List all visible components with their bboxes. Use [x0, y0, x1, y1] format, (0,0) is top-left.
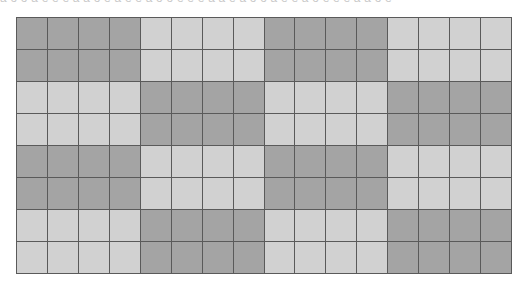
grid-cell	[481, 210, 511, 241]
grid-cell	[419, 146, 449, 177]
grid-cell	[419, 50, 449, 81]
grid-cell	[110, 146, 140, 177]
grid-cell	[357, 210, 387, 241]
grid-cell	[450, 210, 480, 241]
grid-cell	[357, 114, 387, 145]
grid-cell	[481, 178, 511, 209]
grid-cell	[357, 82, 387, 113]
grid-cell	[234, 82, 264, 113]
grid-cell	[141, 242, 171, 273]
grid-cell	[388, 18, 418, 49]
grid-cell	[357, 146, 387, 177]
grid-cell	[265, 82, 295, 113]
grid-cell	[17, 18, 47, 49]
grid-cell	[326, 114, 356, 145]
grid-cell	[419, 82, 449, 113]
grid-cell	[17, 242, 47, 273]
grid-cell	[450, 18, 480, 49]
grid-cell	[295, 242, 325, 273]
grid-cell	[48, 82, 78, 113]
grid-cell	[419, 18, 449, 49]
grid-cell	[265, 210, 295, 241]
grid-cell	[203, 18, 233, 49]
grid-cell	[388, 178, 418, 209]
grid-cell	[48, 50, 78, 81]
grid-cell	[172, 114, 202, 145]
grid-cell	[79, 242, 109, 273]
grid-cell	[295, 178, 325, 209]
grid-cell	[48, 242, 78, 273]
grid-cell	[203, 178, 233, 209]
grid-cell	[295, 50, 325, 81]
grid-cell	[141, 18, 171, 49]
grid-cell	[388, 146, 418, 177]
grid-cell	[481, 50, 511, 81]
grid-cell	[450, 82, 480, 113]
grid-cell	[265, 178, 295, 209]
grid-cell	[203, 82, 233, 113]
grid-cell	[48, 114, 78, 145]
grid-cell	[17, 50, 47, 81]
grid-cell	[172, 50, 202, 81]
grid-cell	[481, 242, 511, 273]
grid-cell	[110, 242, 140, 273]
grid-cell	[48, 178, 78, 209]
grid-cell	[172, 242, 202, 273]
grid-cell	[326, 242, 356, 273]
grid-cell	[357, 50, 387, 81]
grid-cell	[295, 146, 325, 177]
grid-cell	[326, 82, 356, 113]
grid-cell	[110, 18, 140, 49]
grid-cell	[326, 146, 356, 177]
grid-cell	[450, 242, 480, 273]
clipped-caption-text: a o o a e e e a a o e a e e a o o e e e …	[0, 0, 526, 5]
grid-cell	[234, 146, 264, 177]
grid-cell	[265, 18, 295, 49]
grid-cell	[234, 178, 264, 209]
grid-cell	[234, 210, 264, 241]
grid-cell	[203, 114, 233, 145]
grid-cell	[388, 210, 418, 241]
grid-cell	[295, 210, 325, 241]
grid-cell	[419, 242, 449, 273]
grid-cell	[481, 18, 511, 49]
grid-cell	[110, 50, 140, 81]
grid-cell	[265, 50, 295, 81]
grid-cell	[265, 114, 295, 145]
grid-cell	[326, 178, 356, 209]
grid-cell	[326, 18, 356, 49]
grid-cell	[17, 146, 47, 177]
grid-cell	[450, 178, 480, 209]
grid-cell	[17, 114, 47, 145]
grid-cell	[203, 210, 233, 241]
grid-cell	[388, 242, 418, 273]
grid-cell	[203, 50, 233, 81]
grid-cell	[388, 114, 418, 145]
grid-cell	[141, 178, 171, 209]
grid-cell	[481, 114, 511, 145]
grid-cell	[79, 50, 109, 81]
grid-cell	[172, 82, 202, 113]
grid-cell	[326, 50, 356, 81]
grid-cell	[141, 146, 171, 177]
grid-cell	[79, 82, 109, 113]
grid-cell	[450, 50, 480, 81]
grid-cell	[79, 18, 109, 49]
grid-cell	[79, 146, 109, 177]
grid-cell	[17, 178, 47, 209]
grid-cell	[295, 114, 325, 145]
grid-cell	[357, 178, 387, 209]
grid-cell	[419, 210, 449, 241]
grid-cell	[141, 50, 171, 81]
grid-cell	[481, 82, 511, 113]
grid-cell	[295, 82, 325, 113]
grid-cell	[172, 18, 202, 49]
grid-cell	[203, 146, 233, 177]
grid-cell	[234, 50, 264, 81]
grid-cell	[234, 18, 264, 49]
grid-cell	[110, 178, 140, 209]
grid-cell	[17, 210, 47, 241]
grid-cell	[357, 242, 387, 273]
checker-block-grid	[16, 17, 512, 274]
grid-cell	[79, 210, 109, 241]
